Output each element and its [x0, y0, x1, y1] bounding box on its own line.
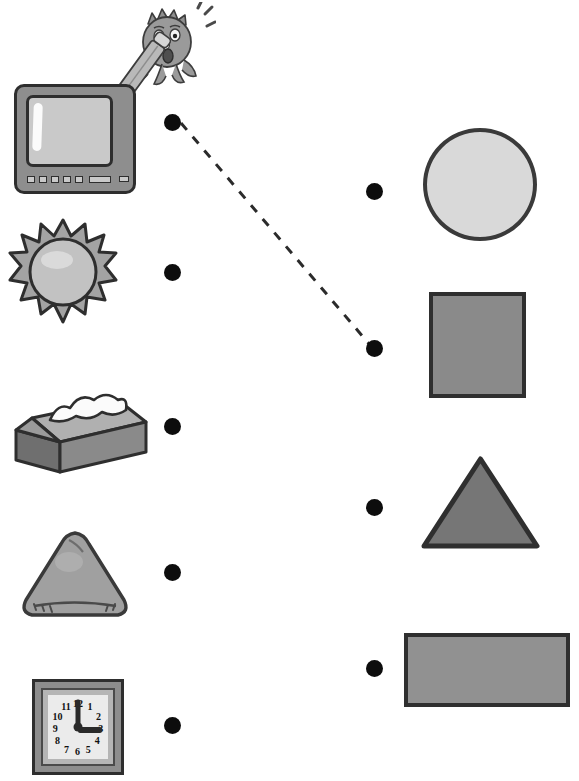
tv-icon	[14, 84, 136, 194]
dot-triangle[interactable]	[366, 499, 383, 516]
clock-numeral: 11	[61, 702, 70, 712]
dot-rectangle[interactable]	[366, 660, 383, 677]
clock-numeral: 6	[75, 747, 80, 757]
shape-circle	[423, 128, 537, 241]
clock-numeral: 4	[95, 736, 100, 746]
dot-television[interactable]	[164, 114, 181, 131]
clock-face: 12 1 2 3 4 5 6 7 8 9 10 11	[48, 695, 108, 759]
tissue-box-icon	[10, 388, 150, 476]
clock-bezel: 12 1 2 3 4 5 6 7 8 9 10 11	[41, 688, 115, 766]
clock-numeral: 5	[86, 745, 91, 755]
shape-rectangle	[404, 633, 570, 707]
dot-square[interactable]	[366, 340, 383, 357]
clock-numeral: 2	[96, 712, 101, 722]
worksheet-canvas: 12 1 2 3 4 5 6 7 8 9 10 11	[0, 0, 579, 781]
dot-tissue-box[interactable]	[164, 418, 181, 435]
tv-control-panel	[27, 174, 127, 186]
tv-screen-glint	[32, 103, 43, 151]
clock-numeral: 1	[88, 702, 93, 712]
dot-sun[interactable]	[164, 264, 181, 281]
dot-circle[interactable]	[366, 183, 383, 200]
clock-numeral: 9	[53, 724, 58, 734]
clock-numeral: 10	[53, 712, 63, 722]
shape-square	[429, 292, 526, 398]
clock-icon: 12 1 2 3 4 5 6 7 8 9 10 11	[32, 679, 124, 775]
clock-numeral: 7	[64, 745, 69, 755]
dot-triangle-cushion[interactable]	[164, 564, 181, 581]
shape-triangle	[420, 455, 541, 550]
cushion-icon	[14, 528, 136, 624]
sun-icon	[8, 218, 118, 328]
clock-center-pin	[74, 723, 83, 732]
clock-numeral: 8	[55, 736, 60, 746]
dot-clock[interactable]	[164, 717, 181, 734]
